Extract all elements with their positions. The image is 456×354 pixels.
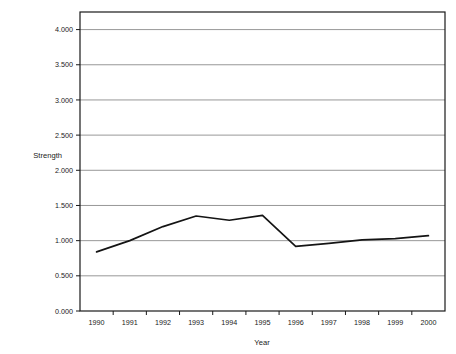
x-axis-tick-label: 1999 <box>387 318 403 327</box>
chart-background <box>0 0 456 354</box>
line-chart: 0.0000.5001.0001.5002.0002.5003.0003.500… <box>0 0 456 354</box>
y-axis-tick-label: 2.500 <box>55 131 73 140</box>
x-axis-tick-label: 1994 <box>221 318 237 327</box>
x-axis-tick-label: 1991 <box>122 318 138 327</box>
chart-canvas: 0.0000.5001.0001.5002.0002.5003.0003.500… <box>0 0 456 354</box>
y-axis-tick-label: 1.500 <box>55 201 73 210</box>
y-axis-tick-label: 0.000 <box>55 307 73 316</box>
y-axis-tick-label: 4.000 <box>55 25 73 34</box>
y-axis-tick-labels: 0.0000.5001.0001.5002.0002.5003.0003.500… <box>55 25 73 315</box>
x-axis-tick-label: 1996 <box>288 318 304 327</box>
y-axis-tick-label: 2.000 <box>55 166 73 175</box>
y-axis-title: Strength <box>33 151 62 160</box>
y-axis-tick-label: 3.000 <box>55 96 73 105</box>
x-axis-tick-label: 1990 <box>89 318 105 327</box>
x-axis-tick-label: 1992 <box>155 318 171 327</box>
x-axis-tick-label: 1995 <box>255 318 271 327</box>
y-axis-tick-label: 3.500 <box>55 60 73 69</box>
x-axis-tick-label: 1998 <box>354 318 370 327</box>
x-axis-tick-label: 1997 <box>321 318 337 327</box>
x-axis-title: Year <box>254 338 270 347</box>
x-axis-tick-label: 1993 <box>188 318 204 327</box>
y-axis-tick-label: 0.500 <box>55 271 73 280</box>
y-axis-tick-label: 1.000 <box>55 236 73 245</box>
x-axis-tick-label: 2000 <box>420 318 436 327</box>
